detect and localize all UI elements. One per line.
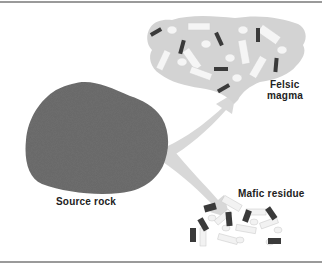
melting-diagram: Source rock Felsic magma Mafic residue xyxy=(0,0,322,266)
felsic-magma-label-line2: magma xyxy=(267,90,303,101)
diagram-graphic xyxy=(0,0,322,266)
source-rock xyxy=(26,82,169,194)
mafic-residue-label: Mafic residue xyxy=(238,188,305,199)
mafic-residue-pile xyxy=(190,195,282,246)
bottom-rule xyxy=(0,261,322,263)
felsic-magma-label-line1: Felsic xyxy=(270,79,300,90)
source-rock-label: Source rock xyxy=(56,196,116,207)
